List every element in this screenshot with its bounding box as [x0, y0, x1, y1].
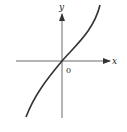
origin-label: 0	[66, 66, 71, 75]
y-axis-label: y	[58, 2, 65, 12]
graph: y x 0	[0, 0, 127, 132]
x-axis-label: x	[112, 56, 117, 66]
